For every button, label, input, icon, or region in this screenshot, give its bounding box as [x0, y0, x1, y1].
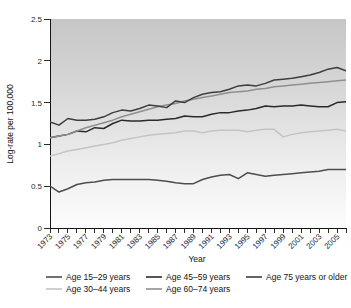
x-tick-label: 1979	[89, 232, 108, 251]
y-tick-label: 0.5	[31, 182, 43, 191]
x-tick-label: 1995	[233, 232, 252, 251]
x-tick-label: 1977	[71, 232, 90, 251]
x-tick-marks	[50, 228, 346, 233]
y-axis-title: Log-rate per 100,000	[5, 84, 15, 164]
x-tick-label: 1975	[53, 232, 72, 251]
x-tick-labels: 1973197519771979198119831985198719891991…	[35, 232, 341, 251]
x-tick-label: 1981	[107, 232, 126, 251]
legend-item-label: Age 75 years or older	[266, 272, 347, 282]
y-tick-label: 1	[38, 140, 43, 149]
x-tick-label: 1989	[179, 232, 198, 251]
legend-item[interactable]: Age 60–74 years	[146, 284, 230, 294]
y-tick-label: 0	[38, 224, 43, 233]
legend-item-label: Age 15–29 years	[66, 272, 130, 282]
x-tick-label: 2003	[305, 232, 324, 251]
legend-item[interactable]: Age 15–29 years	[46, 272, 130, 282]
line-chart: 00.511.522.5 197319751977197919811983198…	[0, 0, 351, 308]
legend-item-label: Age 45–59 years	[166, 272, 230, 282]
y-tick-label: 2	[38, 57, 43, 66]
x-tick-label: 1973	[35, 232, 54, 251]
chart-figure: 00.511.522.5 197319751977197919811983198…	[0, 0, 351, 308]
legend-item-label: Age 30–44 years	[66, 284, 130, 294]
x-tick-label: 1997	[251, 232, 270, 251]
y-tick-marks	[44, 19, 50, 228]
y-tick-labels: 00.511.522.5	[31, 15, 43, 233]
x-tick-label: 1993	[215, 232, 234, 251]
legend: Age 15–29 yearsAge 30–44 yearsAge 45–59 …	[46, 272, 347, 294]
x-tick-label: 2005	[322, 232, 341, 251]
y-tick-label: 2.5	[31, 15, 43, 24]
plot-background	[50, 19, 346, 228]
x-tick-label: 1985	[143, 232, 162, 251]
legend-item[interactable]: Age 30–44 years	[46, 284, 130, 294]
legend-item[interactable]: Age 75 years or older	[246, 272, 347, 282]
legend-item-label: Age 60–74 years	[166, 284, 230, 294]
legend-item[interactable]: Age 45–59 years	[146, 272, 230, 282]
x-tick-label: 1983	[125, 232, 144, 251]
x-tick-label: 1999	[269, 232, 288, 251]
x-tick-label: 2001	[287, 232, 306, 251]
x-axis-title: Year	[188, 254, 205, 264]
y-tick-label: 1.5	[31, 99, 43, 108]
x-tick-label: 1991	[197, 232, 216, 251]
x-tick-label: 1987	[161, 232, 180, 251]
